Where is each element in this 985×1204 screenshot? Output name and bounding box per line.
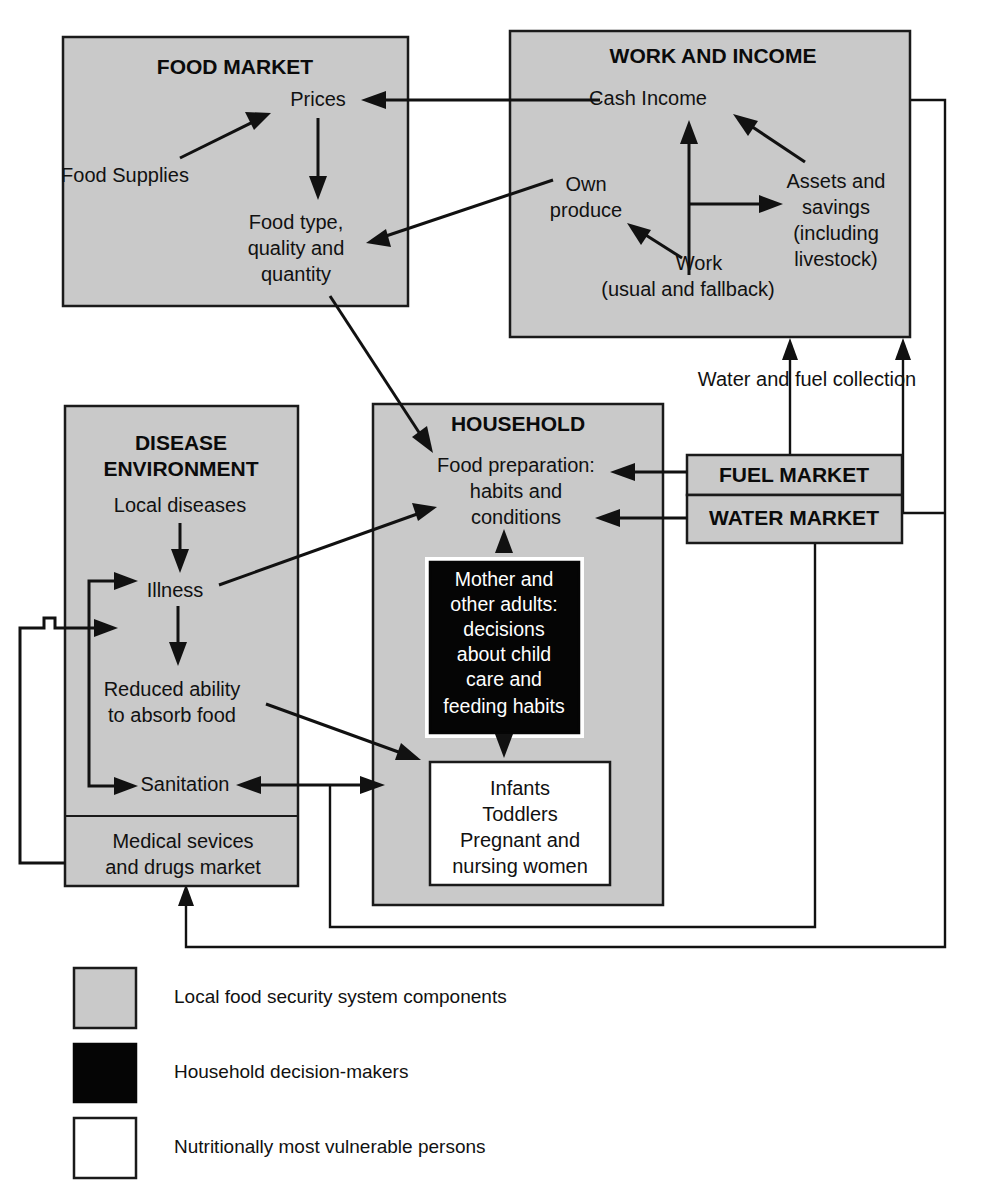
node-assets-line3: (including [793,222,879,244]
legend-swatch-vulnerable [74,1118,136,1178]
water-market-box[interactable]: WATER MARKET [687,495,902,543]
node-food-prep-line1: Food preparation: [437,454,595,476]
node-illness: Illness [147,579,204,601]
arrow-sanitation-household-bidirectional [236,776,385,794]
legend: Local food security system components Ho… [74,968,507,1178]
disease-environment-title-line1: DISEASE [135,431,227,454]
household-box[interactable]: HOUSEHOLD Food preparation: habits and c… [373,404,663,905]
node-own-produce-line1: Own [565,173,606,195]
fuel-market-box[interactable]: FUEL MARKET [687,455,902,495]
node-vulnerable-line4: nursing women [452,855,588,877]
node-vulnerable-line1: Infants [490,777,550,799]
node-reduced-ability-line1: Reduced ability [104,678,241,700]
node-food-type-line3: quantity [261,263,331,285]
node-vulnerable-line2: Toddlers [482,803,558,825]
node-assets-line2: savings [802,196,870,218]
node-mother-line6: feeding habits [443,695,565,717]
food-security-system-diagram: FOOD MARKET Prices Food Supplies Food ty… [0,0,985,1204]
node-medical-services-line1: Medical sevices [112,830,253,852]
node-sanitation: Sanitation [141,773,230,795]
node-mother-line1: Mother and [455,568,554,590]
node-prices: Prices [290,88,346,110]
work-and-income-box[interactable]: WORK AND INCOME Cash Income Own produce … [510,31,910,337]
node-reduced-ability-line2: to absorb food [108,704,236,726]
food-market-title: FOOD MARKET [157,55,313,78]
node-mother-line2: other adults: [450,593,557,615]
legend-label-components: Local food security system components [174,986,507,1007]
node-mother-line3: decisions [463,618,545,640]
legend-label-vulnerable: Nutritionally most vulnerable persons [174,1136,486,1157]
node-assets-line1: Assets and [787,170,886,192]
node-vulnerable-line3: Pregnant and [460,829,580,851]
work-and-income-title: WORK AND INCOME [610,44,817,67]
node-mother-line4: about child [457,643,551,665]
node-mother-line5: care and [466,668,542,690]
legend-label-decision-makers: Household decision-makers [174,1061,408,1082]
node-assets-line4: livestock) [794,248,877,270]
food-market-box[interactable]: FOOD MARKET Prices Food Supplies Food ty… [61,37,408,306]
legend-swatch-components [74,968,136,1028]
node-local-diseases: Local diseases [114,494,246,516]
node-cash-income: Cash Income [589,87,707,109]
node-food-type-line1: Food type, [249,211,344,233]
diagram-canvas: FOOD MARKET Prices Food Supplies Food ty… [0,0,985,1204]
node-food-supplies: Food Supplies [61,164,189,186]
node-food-prep-line2: habits and [470,480,562,502]
node-own-produce-line2: produce [550,199,622,221]
disease-environment-title-line2: ENVIRONMENT [103,457,258,480]
water-market-title: WATER MARKET [709,506,879,529]
fuel-market-title: FUEL MARKET [719,463,869,486]
fuel-market-riser [782,338,798,470]
label-water-and-fuel-collection: Water and fuel collection [698,368,916,390]
node-food-prep-line3: conditions [471,506,561,528]
legend-swatch-decision-makers [74,1044,136,1102]
node-medical-services-line2: and drugs market [105,856,261,878]
node-food-type-line2: quality and [248,237,345,259]
household-title: HOUSEHOLD [451,412,585,435]
node-work-line2: (usual and fallback) [601,278,774,300]
node-work-line1: Work [676,252,723,274]
